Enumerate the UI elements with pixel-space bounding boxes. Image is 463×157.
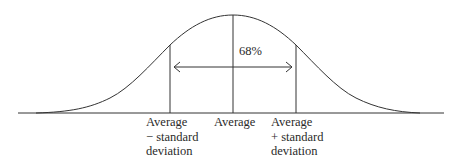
svg-text:deviation: deviation: [146, 144, 193, 157]
minus-sd-label: Average − standard deviation: [146, 115, 199, 157]
plus-sd-label: Average + standard deviation: [271, 115, 324, 157]
bell-curve: [36, 15, 420, 113]
normal-distribution-diagram: 68% Average − standard deviation Average…: [0, 0, 463, 157]
svg-text:− standard: − standard: [146, 130, 199, 144]
svg-text:deviation: deviation: [271, 144, 318, 157]
svg-text:Average: Average: [271, 115, 313, 129]
diagram-canvas: 68% Average − standard deviation Average…: [0, 0, 463, 157]
mean-label: Average: [214, 115, 256, 129]
percentage-label: 68%: [239, 44, 262, 58]
svg-text:Average: Average: [146, 115, 188, 129]
svg-text:+ standard: + standard: [271, 130, 324, 144]
